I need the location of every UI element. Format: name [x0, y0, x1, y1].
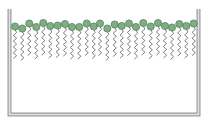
lipid-head [61, 20, 68, 27]
lipid-tail [142, 26, 145, 55]
lipid-tail [78, 30, 81, 59]
lipid-head [125, 20, 132, 27]
lipid-head [96, 20, 103, 27]
lipid-tail [70, 30, 73, 59]
lipid-tail [156, 26, 159, 55]
lipid-head [19, 25, 26, 32]
lipid-head [132, 23, 139, 30]
lipid-tail [192, 27, 195, 56]
lipid-tail [92, 30, 95, 59]
lipid-head [54, 22, 61, 29]
lipid-tail [21, 32, 24, 61]
lipid-tail [185, 29, 188, 58]
lipid-tail [56, 29, 59, 58]
lipid-tail [63, 27, 66, 56]
lipid-head [68, 23, 75, 30]
lipid-head [168, 24, 175, 31]
lipid-head [161, 22, 168, 29]
lipid-head [47, 22, 54, 29]
monolayer-diagram [0, 0, 204, 122]
lipid-head [40, 19, 47, 26]
lipid-tail [13, 30, 16, 59]
lipid-tail [42, 26, 45, 55]
lipid-head [183, 22, 190, 29]
lipid-tail [134, 30, 137, 59]
lipid-tail [149, 30, 152, 59]
lipid-head [147, 23, 154, 30]
lipid-tail [120, 29, 123, 58]
lipid-tail [98, 27, 101, 56]
lipid-head [118, 22, 125, 29]
lipid-head [76, 23, 83, 30]
lipid-tail [170, 31, 173, 60]
lipid-tail [85, 27, 88, 56]
lipid-head [111, 21, 118, 28]
lipid-tail [127, 27, 130, 56]
lipid-tail [178, 27, 181, 56]
lipid-head [104, 25, 111, 32]
lipid-head [33, 23, 40, 30]
lipid-tail [113, 28, 116, 57]
lipid-head [11, 23, 18, 30]
lipid-tail [106, 32, 109, 61]
lipid-head [154, 19, 161, 26]
lipid-head [26, 20, 33, 27]
lipid-tail [49, 29, 52, 58]
lipid-head [140, 19, 147, 26]
hydrophilic-heads [11, 19, 197, 32]
lipid-tail [163, 29, 166, 58]
lipid-tail [28, 27, 31, 56]
lipid-head [176, 20, 183, 27]
hydrophobic-tails [13, 26, 195, 61]
lipid-head [83, 20, 90, 27]
lipid-tail [35, 30, 38, 59]
lipid-head [190, 20, 197, 27]
